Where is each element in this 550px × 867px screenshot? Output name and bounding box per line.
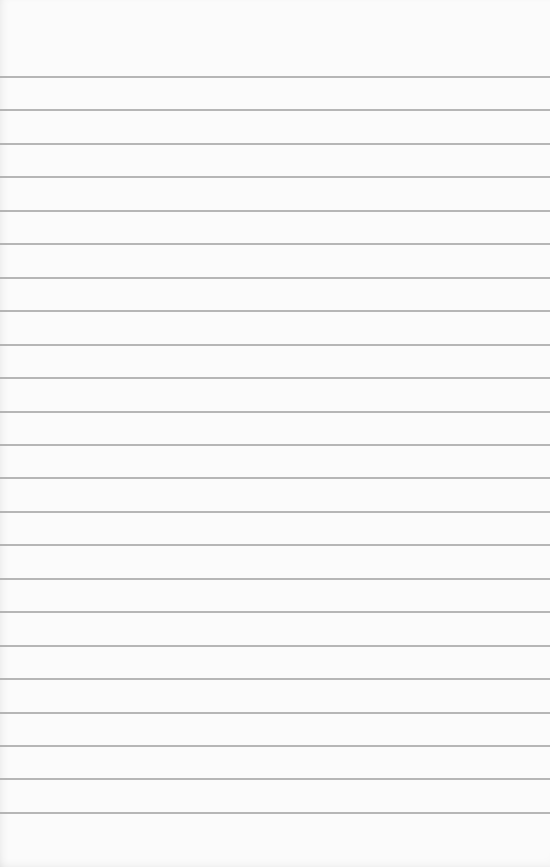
ruled-line bbox=[0, 678, 550, 680]
ruled-line bbox=[0, 544, 550, 546]
ruled-line bbox=[0, 310, 550, 312]
ruled-line bbox=[0, 645, 550, 647]
ruled-line bbox=[0, 611, 550, 613]
ruled-line bbox=[0, 477, 550, 479]
ruled-line bbox=[0, 76, 550, 78]
ruled-line bbox=[0, 176, 550, 178]
ruled-line bbox=[0, 745, 550, 747]
ruled-line bbox=[0, 377, 550, 379]
ruled-line bbox=[0, 511, 550, 513]
ruled-line bbox=[0, 277, 550, 279]
ruled-line bbox=[0, 712, 550, 714]
ruled-line bbox=[0, 210, 550, 212]
lined-paper-sheet bbox=[0, 0, 550, 867]
ruled-line bbox=[0, 778, 550, 780]
ruled-line bbox=[0, 143, 550, 145]
ruled-line bbox=[0, 444, 550, 446]
ruled-line bbox=[0, 812, 550, 814]
ruled-line bbox=[0, 344, 550, 346]
ruled-line bbox=[0, 243, 550, 245]
ruled-line bbox=[0, 411, 550, 413]
ruled-line bbox=[0, 578, 550, 580]
paper-edge-shadow bbox=[0, 0, 550, 867]
ruled-line bbox=[0, 109, 550, 111]
